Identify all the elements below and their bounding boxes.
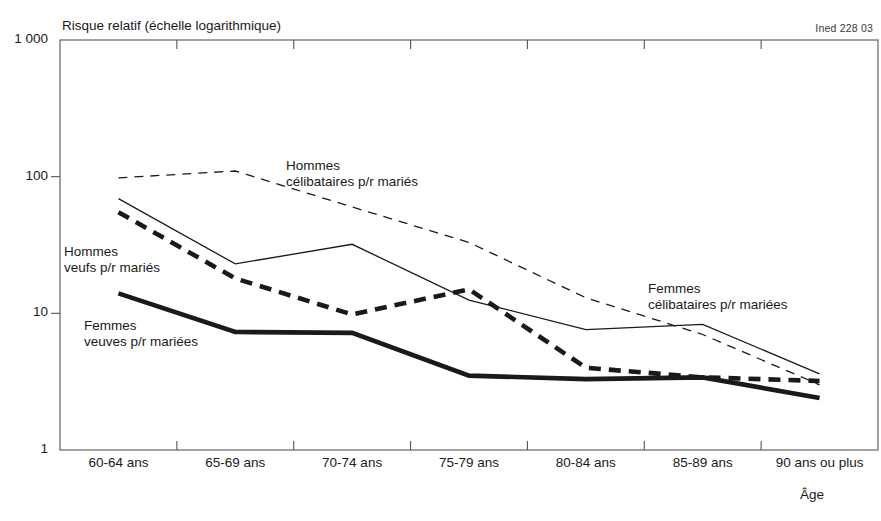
- y-tick-label-1000: 1 000: [0, 31, 48, 46]
- annotation-femmes-celibataires-line-2: célibataires p/r mariées: [648, 297, 788, 313]
- y-tick-label-10: 10: [0, 304, 48, 319]
- x-tick-label-1: 65-69 ans: [177, 455, 294, 470]
- x-tick-label-2: 70-74 ans: [294, 455, 411, 470]
- x-tick-label-4: 80-84 ans: [527, 455, 644, 470]
- series-line-0: [118, 171, 819, 385]
- annotation-femmes-veuves-line-1: Femmes: [84, 318, 198, 334]
- x-axis-title: Âge: [800, 487, 824, 502]
- y-tick-label-100: 100: [0, 168, 48, 183]
- annotation-hommes-celibataires-line-2: célibataires p/r mariés: [286, 174, 418, 190]
- annotation-femmes-celibataires: Femmescélibataires p/r mariées: [648, 281, 788, 313]
- y-tick-label-1: 1: [0, 441, 48, 456]
- x-tick-label-3: 75-79 ans: [411, 455, 528, 470]
- annotation-hommes-celibataires: Hommescélibataires p/r mariés: [286, 158, 418, 190]
- annotation-hommes-celibataires-line-1: Hommes: [286, 158, 418, 174]
- annotation-femmes-veuves-line-2: veuves p/r mariées: [84, 334, 198, 350]
- annotation-hommes-veufs-line-2: veufs p/r mariés: [64, 260, 160, 276]
- x-tick-label-6: 90 ans ou plus: [761, 455, 878, 470]
- x-tick-label-5: 85-89 ans: [644, 455, 761, 470]
- annotation-hommes-veufs-line-1: Hommes: [64, 244, 160, 260]
- annotation-femmes-veuves: Femmesveuves p/r mariées: [84, 318, 198, 350]
- annotation-hommes-veufs: Hommesveufs p/r mariés: [64, 244, 160, 276]
- annotation-femmes-celibataires-line-1: Femmes: [648, 281, 788, 297]
- x-tick-label-0: 60-64 ans: [60, 455, 177, 470]
- chart-figure: Risque relatif (échelle logarithmique) I…: [0, 0, 881, 521]
